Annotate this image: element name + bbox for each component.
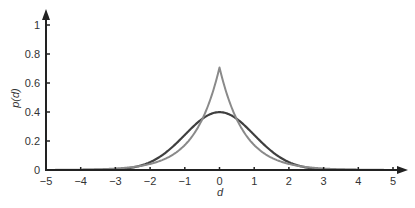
x-tick-label: 4 xyxy=(355,175,361,187)
y-tick-label: 0.8 xyxy=(25,48,40,60)
axes xyxy=(42,9,408,174)
plot-area: −5−4−3−2−101234500.20.40.60.81 d p(d) xyxy=(0,0,415,208)
chart: −5−4−3−2−101234500.20.40.60.81 d p(d) xyxy=(0,0,415,208)
y-tick-label: 0 xyxy=(34,164,40,176)
x-tick-label: −2 xyxy=(144,175,157,187)
y-tick-label: 0.4 xyxy=(25,106,40,118)
y-tick-label: 1 xyxy=(34,19,40,31)
laplacian-curve xyxy=(46,67,393,169)
x-tick-label: 1 xyxy=(251,175,257,187)
x-tick-label: −5 xyxy=(40,175,53,187)
x-tick-label: 2 xyxy=(286,175,292,187)
x-tick-label: 5 xyxy=(390,175,396,187)
tick-labels: −5−4−3−2−101234500.20.40.60.81 xyxy=(25,19,396,187)
y-tick-label: 0.2 xyxy=(25,135,40,147)
y-tick-label: 0.6 xyxy=(25,77,40,89)
gaussian-curve xyxy=(46,112,393,170)
curves xyxy=(46,67,393,170)
x-tick-label: −1 xyxy=(179,175,192,187)
x-tick-label: 3 xyxy=(321,175,327,187)
y-axis-arrow-icon xyxy=(42,9,50,20)
x-tick-label: −4 xyxy=(74,175,87,187)
y-axis-label: p(d) xyxy=(9,88,21,109)
x-axis-label: d xyxy=(217,186,224,198)
x-tick-label: −3 xyxy=(109,175,122,187)
x-axis-arrow-icon xyxy=(397,166,408,174)
